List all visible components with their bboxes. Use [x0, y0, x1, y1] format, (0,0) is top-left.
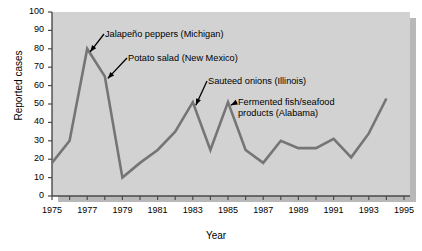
y-axis-title: Reported cases — [13, 41, 24, 131]
annotation-label-sauteed-onions: Sauteed onions (Illinois) — [208, 76, 306, 87]
y-tick-label: 90 — [18, 25, 44, 34]
x-tick-label: 1989 — [283, 206, 313, 215]
x-tick-label: 1993 — [354, 206, 384, 215]
y-tick-label: 100 — [18, 7, 44, 16]
chart-figure: 0102030405060708090100 19751977197919811… — [0, 0, 422, 251]
x-tick-label: 1983 — [178, 206, 208, 215]
x-tick-label: 1975 — [37, 206, 67, 215]
y-tick-label: 0 — [18, 191, 44, 200]
annotation-label-potato-salad: Potato salad (New Mexico) — [128, 53, 238, 64]
x-tick-label: 1981 — [143, 206, 173, 215]
annotation-leader-lines — [90, 34, 238, 105]
x-tick-label: 1987 — [248, 206, 278, 215]
y-tick-label: 20 — [18, 154, 44, 163]
data-series-line — [52, 49, 386, 178]
x-tick-label: 1995 — [389, 206, 419, 215]
x-tick-label: 1979 — [107, 206, 137, 215]
y-tick-label: 30 — [18, 136, 44, 145]
annotation-label-fermented-fish: Fermented fish/seafood products (Alabama… — [238, 97, 335, 119]
x-tick-label: 1977 — [72, 206, 102, 215]
y-tick-label: 10 — [18, 173, 44, 182]
x-axis-title: Year — [186, 230, 246, 241]
x-tick-label: 1991 — [319, 206, 349, 215]
annotation-label-jalapeno-peppers: Jalapeño peppers (Michigan) — [105, 29, 224, 40]
x-tick-label: 1985 — [213, 206, 243, 215]
